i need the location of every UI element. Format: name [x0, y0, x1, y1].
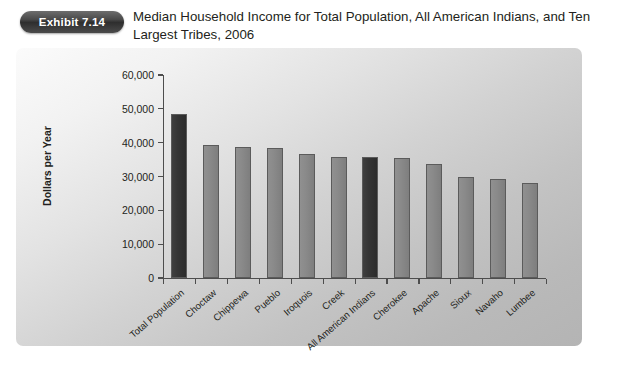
y-tick-label: 60,000: [102, 69, 154, 81]
y-tick-mark: [158, 176, 163, 177]
bar-choctaw: [203, 145, 219, 278]
x-tick-mark: [163, 279, 164, 284]
x-axis-label: Lumbee: [504, 287, 537, 318]
y-tick-label: 30,000: [102, 171, 154, 183]
bar-pueblo: [267, 148, 283, 278]
x-axis-label: Sioux: [448, 287, 473, 311]
x-axis-label: Pueblo: [252, 287, 282, 315]
x-tick-mark: [323, 279, 324, 284]
y-tick-label: 10,000: [102, 238, 154, 250]
x-tick-mark: [450, 279, 451, 284]
bar-cherokee: [394, 158, 410, 278]
x-tick-mark: [195, 279, 196, 284]
bar-apache: [426, 164, 442, 278]
figure-title: Median Household Income for Total Popula…: [133, 8, 613, 43]
x-tick-mark: [259, 279, 260, 284]
x-tick-mark: [546, 279, 547, 284]
bar-total-population: [171, 114, 187, 278]
bar-all-american-indians: [362, 157, 378, 278]
y-axis-line: [163, 75, 164, 279]
y-tick-mark: [158, 74, 163, 75]
bar-lumbee: [522, 183, 538, 278]
x-axis-label: Iroquois: [281, 287, 314, 318]
x-tick-mark: [514, 279, 515, 284]
x-axis-label: Creek: [319, 287, 346, 312]
exhibit-badge-label: Exhibit 7.14: [39, 16, 105, 28]
x-tick-mark: [291, 279, 292, 284]
y-tick-label: 0: [102, 272, 154, 284]
x-tick-mark: [386, 279, 387, 284]
y-tick-mark: [158, 210, 163, 211]
y-tick-mark: [158, 142, 163, 143]
bar-chippewa: [235, 147, 251, 278]
x-axis-label: Navaho: [473, 287, 505, 317]
bar-navaho: [490, 179, 506, 278]
x-tick-mark: [482, 279, 483, 284]
y-tick-label: 40,000: [102, 137, 154, 149]
x-tick-mark: [227, 279, 228, 284]
y-tick-label: 50,000: [102, 103, 154, 115]
bar-iroquois: [299, 154, 315, 278]
x-axis-label: Cherokee: [371, 287, 410, 323]
x-axis-label: Total Population: [127, 287, 186, 340]
exhibit-badge: Exhibit 7.14: [20, 11, 124, 33]
x-tick-mark: [355, 279, 356, 284]
bar-chart-plot: Dollars per Year 010,00020,00030,00040,0…: [16, 48, 582, 346]
y-tick-mark: [158, 108, 163, 109]
bar-sioux: [458, 177, 474, 278]
exhibit-figure: Exhibit 7.14 Median Household Income for…: [0, 0, 640, 371]
y-tick-mark: [158, 244, 163, 245]
y-axis-title: Dollars per Year: [41, 111, 53, 221]
chart-panel: Dollars per Year 010,00020,00030,00040,0…: [16, 48, 582, 346]
y-tick-label: 20,000: [102, 204, 154, 216]
bar-creek: [331, 157, 347, 278]
x-axis-label: Apache: [410, 287, 442, 317]
x-tick-mark: [418, 279, 419, 284]
